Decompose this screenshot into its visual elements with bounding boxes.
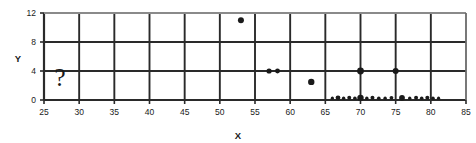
x-tick-label: 40	[145, 107, 155, 117]
scatter-point	[390, 96, 394, 100]
y-tick-label: 4	[31, 66, 36, 76]
scatter-point	[399, 95, 405, 101]
x-tick-label: 50	[215, 107, 225, 117]
y-axis-label: Y	[15, 53, 22, 64]
scatter-point	[357, 68, 364, 75]
scatter-point	[365, 96, 368, 99]
scatter-point	[377, 96, 381, 100]
scatter-point	[408, 96, 411, 99]
x-tick-label: 80	[426, 107, 436, 117]
y-tick-label: 8	[31, 37, 36, 47]
scatter-point	[393, 68, 399, 74]
y-tick-label: 12	[27, 8, 37, 18]
scatter-point	[347, 96, 351, 100]
question-mark-annotation: ?	[55, 64, 66, 91]
chart-annotations: ?	[55, 64, 66, 91]
y-tick-label: 0	[31, 95, 36, 105]
x-tick-label: 35	[110, 107, 120, 117]
scatter-point	[383, 96, 386, 99]
x-tick-label: 30	[74, 107, 84, 117]
plot-canvas: 25303540455055606570758085 04812 ? X Y	[0, 0, 476, 143]
scatter-point	[336, 95, 341, 100]
scatter-plot-figure: 25303540455055606570758085 04812 ? X Y	[0, 0, 476, 143]
scatter-point	[342, 96, 345, 99]
x-tick-label: 75	[391, 107, 401, 117]
scatter-point	[331, 97, 334, 100]
scatter-point	[353, 96, 357, 100]
scatter-point	[266, 68, 271, 73]
x-tick-label: 25	[39, 107, 49, 117]
x-tick-label: 45	[180, 107, 190, 117]
scatter-point	[357, 95, 363, 101]
x-tick-label: 55	[250, 107, 260, 117]
scatter-point	[414, 96, 418, 100]
x-tick-label: 60	[285, 107, 295, 117]
x-tick-label: 85	[461, 107, 471, 117]
scatter-point	[370, 96, 374, 100]
scatter-point	[431, 96, 435, 100]
scatter-point	[308, 79, 314, 85]
scatter-point	[437, 97, 440, 100]
scatter-point	[425, 96, 429, 100]
scatter-point	[420, 96, 424, 100]
x-axis-label: X	[235, 130, 242, 141]
x-tick-label: 65	[321, 107, 331, 117]
scatter-point	[238, 17, 244, 23]
scatter-point	[275, 69, 280, 74]
x-tick-label: 70	[356, 107, 366, 117]
